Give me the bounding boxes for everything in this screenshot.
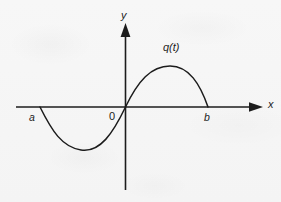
curve-label-qt: q(t) <box>163 42 180 53</box>
figure-canvas: y x 0 a b q(t) <box>0 0 281 202</box>
point-label-b: b <box>204 112 210 123</box>
origin-label: 0 <box>109 111 115 122</box>
x-axis-label: x <box>268 99 274 110</box>
curve-qt <box>40 66 208 150</box>
x-axis-arrowhead <box>249 102 263 112</box>
y-axis-arrowhead <box>121 23 131 37</box>
point-label-a: a <box>29 112 35 123</box>
y-axis-label: y <box>121 10 127 21</box>
plot-svg <box>0 0 281 202</box>
x-axis <box>16 102 263 112</box>
